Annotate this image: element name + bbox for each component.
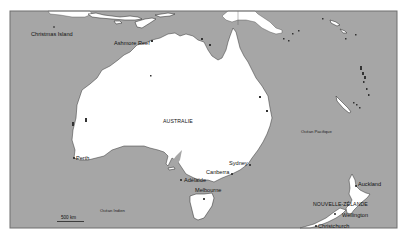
- marker-canberra[interactable]: [231, 173, 233, 175]
- label-new-zealand: NOUVELLE-ZÉLANDE: [313, 201, 368, 207]
- marker-auckland[interactable]: [355, 185, 357, 187]
- label-ocean-indian: Océan Indien: [100, 208, 126, 213]
- label-auckland: Auckland: [358, 181, 381, 187]
- label-melbourne: Melbourne: [195, 187, 221, 193]
- label-australia: AUSTRALIE: [163, 118, 193, 124]
- label-adelaide: Adélaïde: [184, 177, 206, 183]
- label-christchurch: Christchurch: [318, 223, 349, 229]
- label-canberra: Canberra: [206, 169, 230, 175]
- label-ocean-pacific: Océan Pacifique: [301, 129, 332, 134]
- marker-melbourne[interactable]: [203, 198, 205, 200]
- label-perth: Perth: [76, 155, 89, 161]
- map-canvas[interactable]: AUSTRALIE NOUVELLE-ZÉLANDE Océan Pacifiq…: [0, 0, 408, 237]
- scale-label: 500 km: [61, 215, 76, 220]
- label-wellington: Wellington: [342, 212, 368, 218]
- marker-christmas-island[interactable]: [53, 26, 55, 28]
- marker-wellington[interactable]: [334, 213, 336, 215]
- label-christmas-island: Christmas Island: [31, 31, 73, 37]
- marker-adelaide[interactable]: [180, 179, 182, 181]
- label-ashmore-reef: Ashmore Reef: [114, 40, 150, 46]
- marker-sydney[interactable]: [249, 164, 251, 166]
- marker-christchurch[interactable]: [315, 225, 317, 227]
- marker-perth[interactable]: [73, 157, 75, 159]
- label-sydney: Sydney: [229, 160, 248, 166]
